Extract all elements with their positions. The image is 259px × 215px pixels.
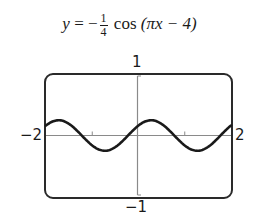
plot-area bbox=[0, 0, 259, 215]
y-max-label: 1 bbox=[132, 54, 142, 70]
y-min-label: −1 bbox=[125, 199, 147, 215]
x-min-label: −2 bbox=[20, 127, 42, 143]
x-max-label: 2 bbox=[235, 127, 245, 143]
